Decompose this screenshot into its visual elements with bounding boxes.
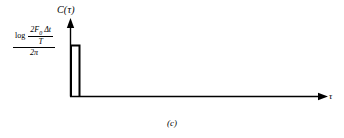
vertical-axis-arrowhead	[67, 18, 74, 28]
outer-denominator: 2π	[30, 48, 38, 57]
figure-caption: (c)	[0, 118, 344, 128]
log-operator: log	[15, 32, 25, 40]
y-axis-label: C(τ)	[57, 4, 75, 15]
x-axis-label: τ	[329, 91, 332, 101]
inner-numerator: 2F0 Δt	[28, 26, 53, 36]
amplitude-numerator: log 2F0 Δt T	[13, 26, 55, 47]
inner-denominator: T	[38, 37, 42, 46]
figure-container: C(τ) τ log 2F0 Δt T 2π (c)	[0, 0, 344, 138]
inner-numerator-suffix: Δt	[44, 25, 51, 34]
amplitude-label: log 2F0 Δt T 2π	[13, 26, 55, 57]
horizontal-axis-arrowhead	[318, 93, 328, 100]
inner-numerator-subscript: 0	[39, 30, 42, 36]
inner-fraction: 2F0 Δt T	[28, 26, 53, 46]
